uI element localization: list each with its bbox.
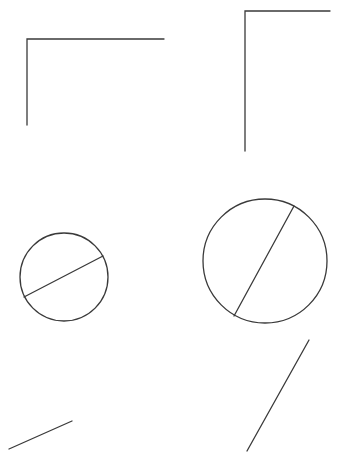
circle-large-diameter <box>234 206 294 316</box>
circle-small-group <box>20 233 108 321</box>
circle-large <box>203 199 327 323</box>
diagram-canvas <box>0 0 339 466</box>
segment-short <box>9 421 72 449</box>
circle-small <box>20 233 108 321</box>
corner-large <box>245 11 330 151</box>
circle-small-diameter <box>24 256 103 297</box>
segment-long <box>247 340 309 451</box>
corner-small <box>27 39 164 125</box>
diagram-svg <box>0 0 339 466</box>
circle-large-group <box>203 199 327 323</box>
